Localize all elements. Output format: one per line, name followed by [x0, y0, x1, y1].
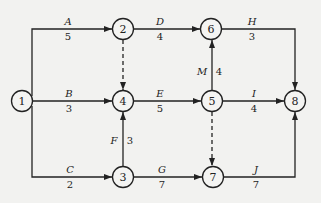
node-6: 6 — [201, 19, 222, 40]
svg-text:D: D — [155, 16, 164, 27]
node-3: 3 — [113, 167, 134, 188]
svg-text:7: 7 — [253, 179, 259, 190]
network-diagram: A 5 B 3 C 2 D 4 E 5 F 3 G 7 H 3 I 4 J 7 … — [0, 0, 321, 203]
label-M: M 4 — [196, 66, 222, 77]
svg-text:2: 2 — [67, 179, 73, 190]
svg-text:2: 2 — [120, 23, 127, 36]
svg-text:6: 6 — [208, 23, 215, 36]
svg-text:B: B — [64, 88, 72, 99]
svg-text:C: C — [66, 164, 74, 175]
svg-text:5: 5 — [157, 103, 163, 114]
node-2: 2 — [113, 19, 134, 40]
svg-text:H: H — [247, 16, 257, 27]
svg-text:M: M — [196, 66, 208, 77]
svg-text:3: 3 — [120, 171, 127, 184]
svg-text:3: 3 — [66, 103, 72, 114]
svg-text:5: 5 — [65, 31, 71, 42]
svg-text:F: F — [110, 135, 119, 146]
svg-text:7: 7 — [210, 171, 217, 184]
svg-text:G: G — [158, 164, 166, 175]
svg-text:4: 4 — [157, 31, 163, 42]
label-F: F 3 — [110, 135, 134, 146]
svg-text:1: 1 — [19, 95, 26, 108]
svg-text:5: 5 — [209, 95, 216, 108]
svg-text:I: I — [251, 88, 257, 99]
svg-text:8: 8 — [292, 95, 299, 108]
svg-text:3: 3 — [249, 31, 255, 42]
svg-text:4: 4 — [120, 95, 127, 108]
node-4: 4 — [113, 91, 134, 112]
node-8: 8 — [285, 91, 306, 112]
edge-J — [224, 112, 295, 177]
node-7: 7 — [203, 167, 224, 188]
svg-text:7: 7 — [159, 179, 165, 190]
svg-text:4: 4 — [251, 103, 257, 114]
node-1: 1 — [12, 91, 33, 112]
edge-A — [32, 29, 112, 96]
svg-text:A: A — [63, 16, 71, 27]
svg-text:3: 3 — [127, 135, 133, 146]
svg-text:4: 4 — [216, 66, 222, 77]
edge-H — [222, 29, 295, 90]
svg-text:J: J — [252, 164, 259, 175]
svg-text:E: E — [155, 88, 164, 99]
node-5: 5 — [202, 91, 223, 112]
